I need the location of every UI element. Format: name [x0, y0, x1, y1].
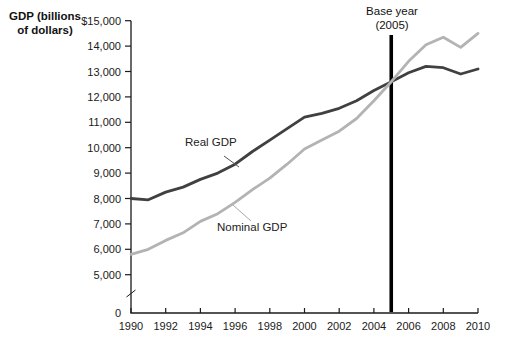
gdp-chart-svg: $15,00014,00013,00012,00011,00010,0009,0… [0, 0, 513, 355]
y-tick-label: 11,000 [88, 116, 121, 128]
nominal-gdp-pointer [233, 205, 251, 221]
x-tick-label: 1996 [223, 320, 247, 332]
real-gdp-label: Real GDP [185, 136, 237, 148]
x-tick-label: 1990 [119, 320, 143, 332]
x-tick-label: 2008 [431, 320, 455, 332]
x-tick-label: 2004 [362, 320, 386, 332]
y-tick-label: 13,000 [87, 66, 121, 78]
y-axis-title: GDP (billions of dollars) [8, 10, 82, 37]
nominal-gdp-label: Nominal GDP [217, 221, 287, 233]
base-year-annotation-line2: (2005) [347, 19, 437, 33]
x-tick-label: 1998 [258, 320, 282, 332]
y-tick-label: 10,000 [87, 142, 121, 154]
x-tick-label: 2010 [466, 320, 490, 332]
y-axis-title-line1: GDP (billions [8, 10, 82, 24]
y-tick-label: 6,000 [93, 243, 121, 255]
y-tick-label: 12,000 [87, 91, 121, 103]
y-tick-label: 5,000 [93, 269, 121, 281]
x-tick-label: 1992 [153, 320, 177, 332]
base-year-annotation-line1: Base year [347, 5, 437, 19]
real-gdp-line [131, 66, 478, 199]
gdp-chart: $15,00014,00013,00012,00011,00010,0009,0… [0, 0, 513, 355]
y-tick-label: $15,000 [81, 15, 121, 27]
y-tick-label: 14,000 [87, 40, 121, 52]
x-tick-label: 1994 [188, 320, 212, 332]
y-tick-label: 0 [115, 307, 121, 319]
x-tick-label: 2002 [327, 320, 351, 332]
y-tick-label: 8,000 [93, 193, 121, 205]
x-tick-label: 2000 [292, 320, 316, 332]
y-axis-title-line2: of dollars) [8, 24, 82, 38]
y-tick-label: 7,000 [93, 218, 121, 230]
base-year-annotation: Base year (2005) [347, 5, 437, 32]
x-tick-label: 2006 [396, 320, 420, 332]
y-tick-label: 9,000 [93, 167, 121, 179]
